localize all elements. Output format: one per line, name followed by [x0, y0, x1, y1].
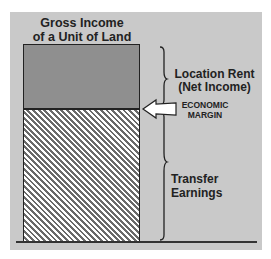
transfer-earnings-label: Transfer Earnings	[171, 172, 271, 200]
transfer-earnings-brace-icon	[160, 112, 167, 240]
location-rent-label: Location Rent (Net Income)	[172, 68, 257, 94]
annotations	[0, 0, 271, 259]
economic-margin-arrow-icon	[143, 100, 176, 118]
location-rent-line-2: (Net Income)	[172, 81, 257, 94]
economic-margin-label: ECONOMIC MARGIN	[180, 100, 230, 120]
economic-margin-line-2: MARGIN	[180, 110, 230, 120]
location-rent-brace-icon	[160, 47, 167, 105]
economic-margin-line-1: ECONOMIC	[180, 100, 230, 110]
